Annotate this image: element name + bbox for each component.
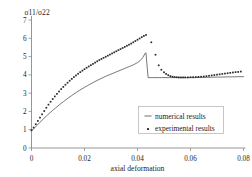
experimental-data-point: [90, 64, 92, 66]
experimental-data-point: [182, 77, 184, 79]
experimental-data-point: [198, 76, 200, 78]
experimental-data-point: [178, 77, 180, 79]
experimental-data-point: [180, 77, 182, 79]
experimental-data-point: [107, 55, 109, 57]
experimental-data-point: [35, 123, 37, 125]
experimental-data-point: [79, 71, 81, 73]
experimental-data-point: [232, 72, 234, 74]
experimental-data-point: [235, 71, 237, 73]
experimental-data-point: [126, 45, 128, 47]
experimental-data-point: [39, 117, 41, 119]
x-tick-label: 0: [30, 155, 34, 163]
legend-dot-swatch: [147, 128, 149, 130]
experimental-data-point: [103, 57, 105, 59]
experimental-data-point: [229, 72, 231, 74]
experimental-data-point: [71, 78, 73, 80]
experimental-data-point: [84, 68, 86, 70]
stress-ratio-plot: 0123456700.020.040.060.08σ11/σ22axial de…: [0, 0, 252, 177]
x-tick-label: 0.08: [237, 155, 250, 163]
experimental-data-point: [143, 35, 145, 37]
experimental-data-point: [195, 76, 197, 78]
y-tick-label: 3: [23, 90, 27, 98]
experimental-data-point: [115, 50, 117, 52]
experimental-data-point: [120, 48, 122, 50]
experimental-data-point: [214, 74, 216, 76]
experimental-data-point: [69, 80, 71, 82]
y-tick-label: 2: [23, 108, 27, 116]
experimental-data-point: [161, 69, 163, 71]
experimental-data-point: [224, 73, 226, 75]
y-tick-label: 5: [23, 53, 27, 61]
experimental-data-point: [165, 73, 167, 75]
experimental-data-point: [58, 91, 60, 93]
experimental-data-point: [170, 75, 172, 77]
experimental-data-point: [221, 73, 223, 75]
chart-container: 0123456700.020.040.060.08σ11/σ22axial de…: [0, 0, 252, 177]
experimental-data-point: [135, 40, 137, 42]
experimental-data-point: [67, 82, 69, 84]
experimental-data-point: [227, 72, 229, 74]
x-tick-label: 0.04: [131, 155, 144, 163]
experimental-data-point: [216, 74, 218, 76]
y-tick-label: 0: [23, 145, 27, 153]
experimental-data-point: [203, 76, 205, 78]
experimental-data-point: [172, 76, 174, 78]
experimental-data-point: [219, 73, 221, 75]
x-axis-title: axial deformation: [111, 164, 165, 173]
experimental-data-point: [130, 43, 132, 45]
experimental-data-point: [52, 98, 54, 100]
experimental-data-point: [163, 71, 165, 73]
experimental-data-point: [82, 70, 84, 72]
experimental-data-point: [101, 58, 103, 60]
experimental-data-point: [240, 71, 242, 73]
experimental-data-point: [167, 74, 169, 76]
experimental-data-point: [62, 86, 64, 88]
experimental-data-point: [33, 127, 35, 129]
experimental-data-point: [150, 41, 152, 43]
experimental-data-point: [37, 120, 39, 122]
experimental-data-point: [48, 104, 50, 106]
experimental-data-point: [192, 76, 194, 78]
x-tick-label: 0.02: [78, 155, 91, 163]
experimental-data-point: [237, 71, 239, 73]
y-tick-label: 1: [23, 126, 27, 134]
experimental-data-point: [105, 56, 107, 58]
experimental-data-point: [92, 63, 94, 65]
experimental-data-point: [96, 60, 98, 62]
y-axis-title: σ11/σ22: [25, 8, 50, 17]
experimental-data-point: [124, 46, 126, 48]
experimental-data-point: [187, 77, 189, 79]
experimental-data-point: [174, 76, 176, 78]
experimental-data-point: [75, 75, 77, 77]
experimental-data-point: [128, 44, 130, 46]
experimental-data-point: [56, 93, 58, 95]
experimental-data-point: [206, 75, 208, 77]
experimental-data-point: [94, 62, 96, 64]
experimental-data-point: [118, 49, 120, 51]
legend-label-experimental: experimental results: [155, 124, 215, 133]
experimental-data-point: [98, 59, 100, 61]
experimental-data-point: [141, 36, 143, 38]
legend-label-numerical: numerical results: [155, 112, 206, 121]
experimental-data-point: [41, 114, 43, 116]
experimental-data-point: [190, 76, 192, 78]
experimental-data-point: [139, 38, 141, 40]
experimental-data-point: [176, 76, 178, 78]
experimental-data-point: [137, 39, 139, 41]
experimental-data-point: [155, 54, 157, 56]
experimental-data-point: [113, 52, 115, 54]
experimental-data-point: [158, 65, 160, 67]
experimental-data-point: [86, 67, 88, 69]
experimental-data-point: [50, 101, 52, 103]
experimental-data-point: [54, 96, 56, 98]
y-tick-label: 4: [23, 71, 27, 79]
experimental-data-point: [184, 77, 186, 79]
x-tick-label: 0.06: [184, 155, 197, 163]
experimental-data-point: [122, 47, 124, 49]
experimental-data-point: [73, 76, 75, 78]
experimental-data-point: [77, 73, 79, 75]
experimental-data-point: [45, 107, 47, 109]
experimental-data-point: [145, 34, 147, 36]
experimental-data-point: [208, 75, 210, 77]
y-tick-label: 7: [23, 17, 27, 25]
